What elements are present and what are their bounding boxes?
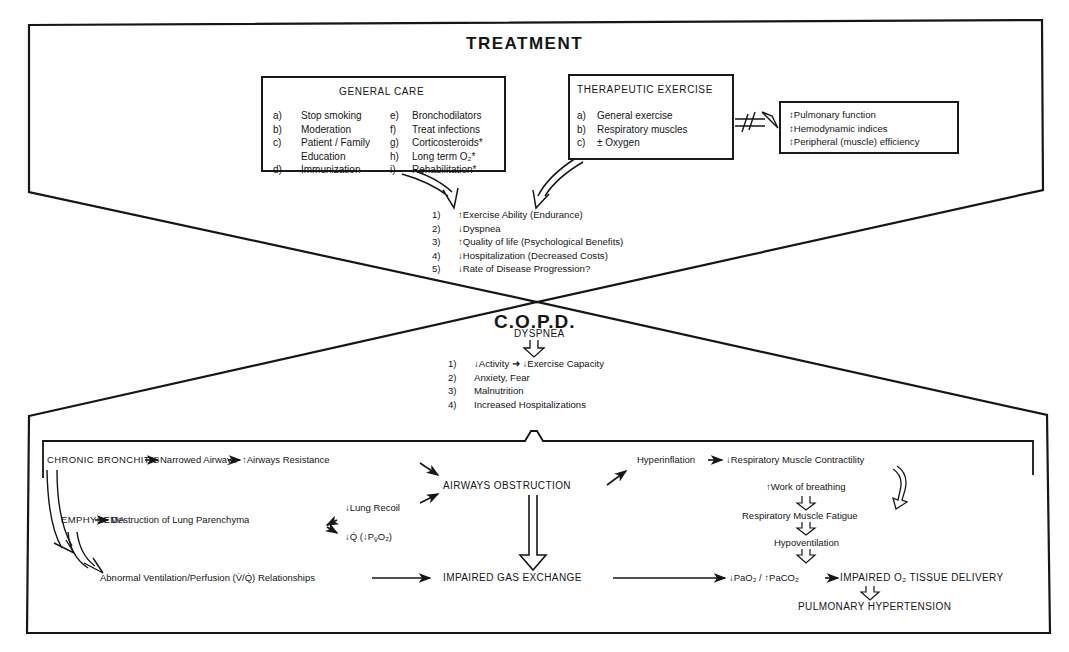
list-item: c)± Oxygen — [577, 136, 688, 150]
arrow-fatigue-hypovent — [797, 522, 815, 535]
list-item: 2)Anxiety, Fear — [448, 371, 604, 385]
general-care-heading: GENERAL CARE — [339, 86, 424, 98]
node-pao2-paco2: ↓PaO₂ / ↑PaCO₂ — [729, 572, 799, 584]
list-item: 4)Increased Hospitalizations — [448, 398, 604, 412]
arrow-delivery-hypertension — [861, 586, 879, 600]
node-hyperinflation: Hyperinflation — [637, 454, 695, 466]
list-item: ↕Hemodynamic indices — [789, 122, 919, 136]
therapeutic-exercise-heading: THERAPEUTIC EXERCISE — [577, 84, 713, 96]
dyspnea-arrow — [524, 340, 544, 357]
node-work-of-breathing: ↑Work of breathing — [766, 481, 846, 493]
general-care-right-list: e)Bronchodilators f)Treat infections g)C… — [390, 109, 483, 177]
treatment-outcomes-list: 1)↑Exercise Ability (Endurance) 2)↓Dyspn… — [432, 208, 623, 276]
node-abnormal-vq: Abnormal Ventilation/Perfusion (V̇/Q̇) R… — [100, 572, 315, 584]
arrow-contractility-fatigue — [893, 466, 907, 509]
list-item: 1)↓Activity ➜ ↓Exercise Capacity — [448, 357, 604, 371]
no-effect-box: ↕Pulmonary function ↕Hemodynamic indices… — [779, 101, 959, 154]
node-airways-obstruction: AIRWAYS OBSTRUCTION — [443, 480, 571, 492]
therapeutic-exercise-box: THERAPEUTIC EXERCISE a)General exercise … — [568, 74, 734, 160]
hollow-arrow-therapeutic — [533, 158, 583, 208]
arrow-hypovent-pao2 — [797, 549, 815, 563]
arrow-work-fatigue — [797, 496, 815, 510]
node-hypoventilation: Hypoventilation — [774, 537, 839, 549]
node-q-dot: ↓Q̇ (↓Pv̄O₂) — [345, 531, 392, 546]
dyspnea-label: DYSPNEA — [514, 328, 565, 340]
curved-arrow-emphysema — [68, 532, 103, 573]
list-item: d)Immunization — [273, 163, 370, 177]
node-airways-resistance: ↑Airways Resistance — [242, 454, 330, 466]
list-item: b)Respiratory muscles — [577, 123, 688, 137]
no-effect-list: ↕Pulmonary function ↕Hemodynamic indices… — [789, 108, 919, 149]
list-item: a)General exercise — [577, 109, 688, 123]
list-item: 4)↓Hospitalization (Decreased Costs) — [432, 249, 623, 263]
node-chronic-bronchitis: CHRONIC BRONCHITIS — [47, 454, 160, 466]
node-narrowed-airways: Narrowed Airways — [160, 454, 237, 466]
node-lung-recoil: ↓Lung Recoil — [345, 502, 400, 514]
list-item: ↕Peripheral (muscle) efficiency — [789, 135, 919, 149]
list-item: f)Treat infections — [390, 123, 483, 137]
list-item: e)Bronchodilators — [390, 109, 483, 123]
therapeutic-exercise-list: a)General exercise b)Respiratory muscles… — [577, 109, 688, 150]
general-care-box: GENERAL CARE a)Stop smoking b)Moderation… — [261, 76, 506, 172]
node-destruction-parenchyma: Destruction of Lung Parenchyma — [111, 514, 249, 526]
copd-consequences-list: 1)↓Activity ➜ ↓Exercise Capacity 2)Anxie… — [448, 357, 604, 411]
list-item: c)Patient / Family — [273, 136, 370, 150]
list-item: a)Stop smoking — [273, 109, 370, 123]
list-item: 1)↑Exercise Ability (Endurance) — [432, 208, 623, 222]
big-hollow-arrow — [520, 495, 546, 570]
treatment-title: TREATMENT — [466, 38, 583, 50]
list-item: b)Moderation — [273, 123, 370, 137]
copd-title: C.O.P.D. — [494, 316, 576, 328]
node-resp-muscle-contractility: ↓Respiratory Muscle Contractility — [726, 454, 864, 466]
node-impaired-o2-delivery: IMPAIRED O₂ TISSUE DELIVERY — [840, 572, 1004, 584]
list-item: i)Rehabilitation* — [390, 163, 483, 177]
list-item: ↕Pulmonary function — [789, 108, 919, 122]
list-item: 2)↓Dyspnea — [432, 222, 623, 236]
blocked-hollow-arrow — [735, 112, 778, 132]
list-item: h)Long term O₂* — [390, 150, 483, 164]
list-item: 3)Malnutrition — [448, 384, 604, 398]
list-item: g)Corticosteroids* — [390, 136, 483, 150]
list-item: 5)↓Rate of Disease Progression? — [432, 262, 623, 276]
list-item: Education — [273, 150, 370, 164]
node-resp-muscle-fatigue: Respiratory Muscle Fatigue — [742, 510, 858, 522]
node-pulmonary-hypertension: PULMONARY HYPERTENSION — [798, 601, 951, 613]
list-item: 3)↑Quality of life (Psychological Benefi… — [432, 235, 623, 249]
node-impaired-gas-exchange: IMPAIRED GAS EXCHANGE — [443, 572, 582, 584]
general-care-left-list: a)Stop smoking b)Moderation c)Patient / … — [273, 109, 370, 177]
